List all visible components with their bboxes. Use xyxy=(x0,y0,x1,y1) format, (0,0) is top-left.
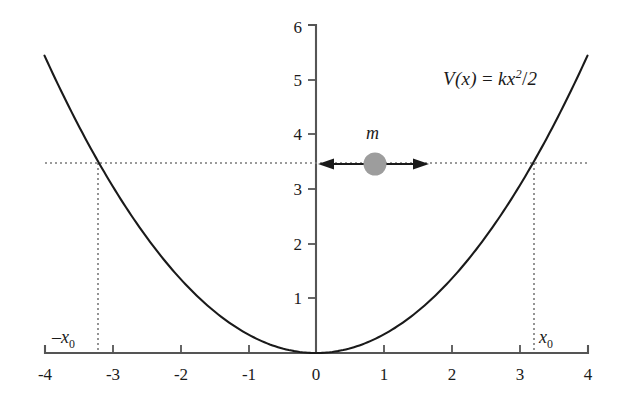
y-axis-ticks xyxy=(308,80,316,298)
x-tick-label: 1 xyxy=(380,366,389,383)
y-axis xyxy=(308,25,316,353)
mass-label: m xyxy=(366,124,379,142)
x-tick-label: -3 xyxy=(106,366,120,383)
x-tick-label: -1 xyxy=(242,366,256,383)
mass-circle xyxy=(364,153,387,176)
y-tick-label: 3 xyxy=(294,181,303,198)
right-turning-point-label: x0 xyxy=(539,328,553,350)
left-turning-point-label: –x0 xyxy=(52,328,75,350)
x-tick-label: 0 xyxy=(312,366,321,383)
harmonic-oscillator-plot xyxy=(0,0,617,411)
figure-canvas: -4 -3 -2 -1 0 1 2 3 4 1 2 3 4 5 6 V(x) =… xyxy=(0,0,617,411)
y-tick-label: 5 xyxy=(294,72,303,89)
x-tick-label: 4 xyxy=(584,366,593,383)
potential-equation-label: V(x) = kx2/2 xyxy=(443,68,537,88)
x-tick-label: -2 xyxy=(174,366,188,383)
x-tick-label: -4 xyxy=(38,366,52,383)
y-tick-label: 4 xyxy=(294,126,303,143)
y-tick-label: 2 xyxy=(294,236,303,253)
y-tick-label: 1 xyxy=(294,290,303,307)
y-tick-label: 6 xyxy=(294,19,303,36)
x-tick-label: 2 xyxy=(448,366,457,383)
x-tick-label: 3 xyxy=(516,366,525,383)
